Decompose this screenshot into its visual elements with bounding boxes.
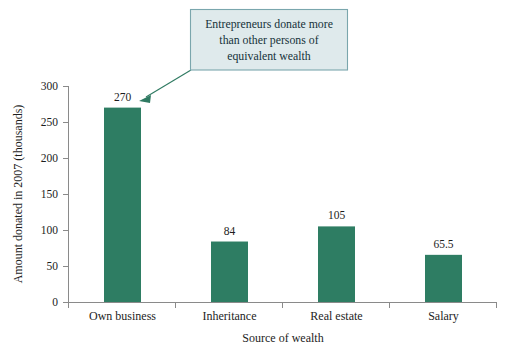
y-tick-label-200: 200 xyxy=(41,152,59,164)
bar-own-business[interactable] xyxy=(104,108,141,302)
bar-value-own-business: 270 xyxy=(114,91,132,103)
bar-salary[interactable] xyxy=(425,255,462,302)
callout-line-1: Entrepreneurs donate more xyxy=(205,17,333,31)
callout-line-2: than other persons of xyxy=(219,33,318,47)
bar-value-real-estate: 105 xyxy=(328,209,346,221)
x-tick-label-own-business: Own business xyxy=(89,309,156,323)
bar-value-inheritance: 84 xyxy=(224,225,236,237)
bar-real-estate[interactable] xyxy=(318,226,355,302)
x-axis-title: Source of wealth xyxy=(242,331,323,345)
x-tick-label-real-estate: Real estate xyxy=(310,309,362,323)
y-tick-label-0: 0 xyxy=(52,296,58,308)
y-tick-label-50: 50 xyxy=(47,260,59,272)
y-axis-title: Amount donated in 2007 (thousands) xyxy=(11,105,25,284)
callout-line-3: equivalent wealth xyxy=(227,49,311,63)
y-tick-label-250: 250 xyxy=(41,116,59,128)
chart-canvas: 0 50 100 150 200 250 300 Amount donated … xyxy=(0,0,514,356)
y-tick-label-300: 300 xyxy=(41,80,59,92)
y-tick-label-100: 100 xyxy=(41,224,59,236)
bar-inheritance[interactable] xyxy=(211,242,248,302)
x-tick-label-inheritance: Inheritance xyxy=(203,309,257,323)
bar-value-salary: 65.5 xyxy=(433,238,453,250)
bar-chart: 0 50 100 150 200 250 300 Amount donated … xyxy=(0,0,514,356)
y-tick-label-150: 150 xyxy=(41,188,59,200)
x-tick-label-salary: Salary xyxy=(428,309,459,323)
